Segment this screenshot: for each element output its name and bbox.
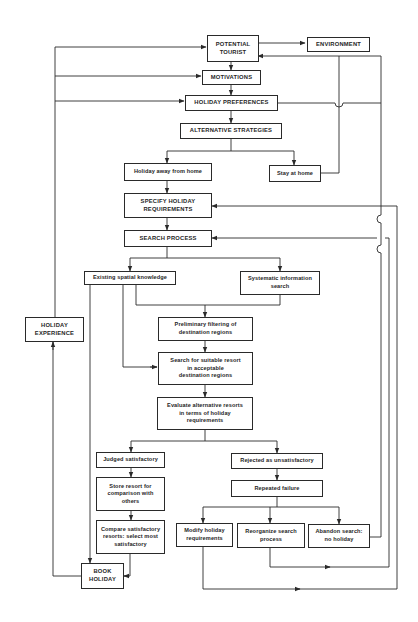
node-store-resort: Store resort for comparison with others bbox=[96, 477, 165, 511]
node-rejected: Rejected as unsatisfactory bbox=[231, 453, 323, 469]
node-reorganize: Reorganize search process bbox=[237, 523, 305, 548]
node-search-resort: Search for suitable resort in acceptable… bbox=[158, 352, 253, 385]
node-abandon: Abandon search: no holiday bbox=[308, 524, 370, 548]
node-compare: Compare satisfactory resorts: select mos… bbox=[96, 520, 165, 554]
node-specify-requirements: SPECIFY HOLIDAY REQUIREMENTS bbox=[124, 193, 212, 218]
node-book-holiday: BOOK HOLIDAY bbox=[81, 563, 124, 589]
node-repeated-failure: Repeated failure bbox=[231, 480, 323, 497]
node-judged-satisfactory: Judged satisfactory bbox=[96, 452, 165, 468]
node-existing-knowledge: Existing spatial knowledge bbox=[84, 271, 176, 285]
node-modify: Modify holiday requirements bbox=[176, 523, 233, 547]
node-motivations: MOTIVATIONS bbox=[202, 70, 261, 85]
node-holiday-experience: HOLIDAY EXPERIENCE bbox=[25, 317, 84, 342]
node-holiday-preferences: HOLIDAY PREFERENCES bbox=[185, 95, 278, 111]
node-evaluate: Evaluate alternative resorts in terms of… bbox=[157, 397, 253, 430]
node-systematic-search: Systematic information search bbox=[240, 271, 320, 295]
node-alternative-strategies: ALTERNATIVE STRATEGIES bbox=[180, 123, 282, 139]
node-environment: ENVIRONMENT bbox=[307, 37, 370, 52]
node-search-process: SEARCH PROCESS bbox=[124, 230, 212, 247]
node-potential-tourist: POTENTIAL TOURIST bbox=[207, 35, 259, 62]
node-holiday-away: Holiday away from home bbox=[124, 163, 212, 181]
node-stay-at-home: Stay at home bbox=[269, 165, 321, 182]
node-preliminary-filtering: Preliminary filtering of destination reg… bbox=[158, 317, 253, 341]
